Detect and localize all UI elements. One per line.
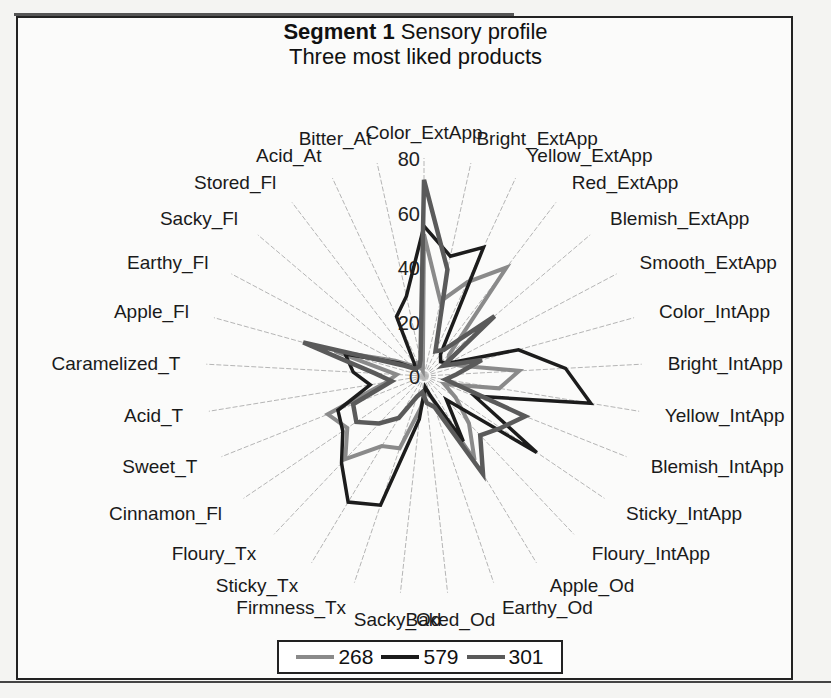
legend-label: 579 [423, 645, 458, 669]
axis-label: Sticky_IntApp [626, 503, 742, 525]
legend-item-579: 579 [381, 645, 458, 669]
axis-label: Earthy_Fl [127, 252, 208, 274]
axis-label: Smooth_ExtApp [640, 252, 777, 274]
axis-label: Acid_T [124, 405, 184, 427]
spoke-line [312, 376, 424, 563]
axis-label: Bright_IntApp [668, 353, 783, 375]
axis-label: Sweet_T [122, 456, 197, 478]
axis-label: Color_ExtApp [365, 122, 482, 144]
axis-label: Sacky_Od [354, 609, 442, 631]
axis-label: Sticky_Tx [216, 575, 299, 597]
axis-label: Sacky_Fl [160, 208, 238, 230]
spoke-line [354, 376, 424, 583]
axis-label: Blemish_ExtApp [610, 208, 749, 230]
chart-legend: 268579301 [277, 640, 563, 674]
radar-chart: 020406080Color_ExtAppBright_ExtAppYellow… [0, 0, 831, 698]
axis-label: Cinnamon_Fl [109, 503, 222, 525]
legend-label: 301 [509, 645, 544, 669]
axis-label: Color_IntApp [659, 301, 770, 323]
axis-label: Firmness_Tx [236, 597, 346, 619]
legend-swatch [381, 655, 419, 659]
axis-label: Bitter_At [299, 128, 373, 150]
legend-item-301: 301 [467, 645, 544, 669]
axis-label: Floury_IntApp [592, 543, 710, 565]
axis-label: Yellow_ExtApp [526, 145, 652, 167]
radial-tick-label: 80 [398, 148, 420, 170]
axis-label: Stored_Fl [194, 172, 276, 194]
legend-item-268: 268 [296, 645, 373, 669]
legend-swatch [296, 655, 334, 659]
axis-label: Floury_Tx [172, 543, 257, 565]
axis-label: Caramelized_T [52, 353, 181, 375]
axis-label: Earthy_Od [502, 597, 593, 619]
axis-label: Apple_Fl [114, 301, 189, 323]
spoke-line [292, 202, 424, 376]
axis-label: Red_ExtApp [572, 172, 679, 194]
legend-label: 268 [338, 645, 373, 669]
radial-tick-label: 60 [398, 203, 420, 225]
legend-swatch [467, 655, 505, 659]
axis-label: Apple_Od [550, 575, 635, 597]
axis-label: Yellow_IntApp [665, 405, 785, 427]
axis-label: Blemish_IntApp [651, 456, 784, 478]
